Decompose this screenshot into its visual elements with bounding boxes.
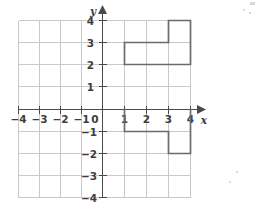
y-tick-label-3: 3 [87,37,94,49]
speck [243,9,245,11]
x-tick-label--4: −4 [10,113,26,125]
x-tick-label--1: −1 [73,113,89,125]
axes [19,5,207,198]
y-axis-label: y [89,5,97,17]
y-tick-label--2: −2 [81,148,97,160]
y-tick-label--4: −4 [81,192,97,204]
speck [250,2,255,5]
speck [229,181,231,183]
origin-label: 0 [91,113,98,125]
speck [249,12,251,14]
y-tick-label-1: 1 [87,81,94,93]
y-axis-arrowhead [98,5,107,14]
x-tick-label--3: −3 [31,113,47,125]
x-tick-label-2: 2 [143,113,150,125]
speck [236,171,238,173]
x-tick-label--2: −2 [52,113,68,125]
coordinate-plane-figure: −4 −3 −2 −1 0 1 2 3 4 4 3 2 1 −1 −2 −3 −… [0,0,257,205]
x-tick-label-3: 3 [165,113,172,125]
y-tick-label-2: 2 [87,59,94,71]
y-tick-label--3: −3 [81,170,97,182]
y-tick-label--1: −1 [81,126,97,138]
image-specks [229,2,255,183]
coordinate-plane-svg: −4 −3 −2 −1 0 1 2 3 4 4 3 2 1 −1 −2 −3 −… [0,0,257,205]
x-axis-label: x [200,114,208,126]
x-axis-arrowhead [197,105,206,114]
